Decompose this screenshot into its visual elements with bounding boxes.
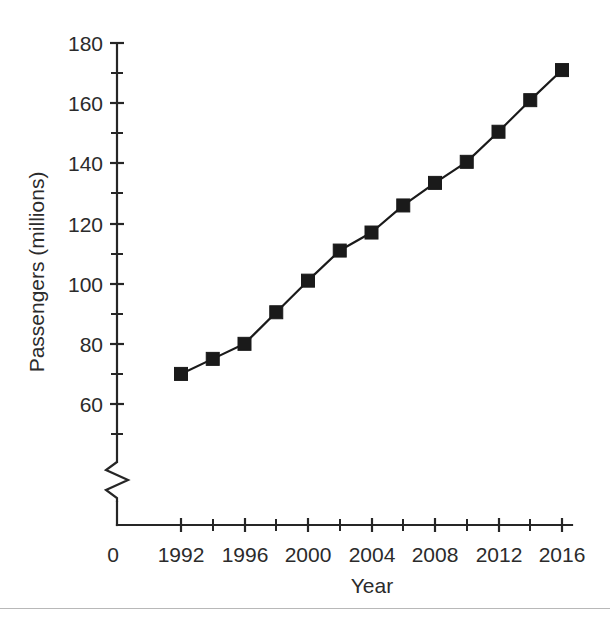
x-axis-title: Year xyxy=(351,574,393,597)
footer-divider xyxy=(0,608,610,609)
y-tick-label-140: 140 xyxy=(68,152,103,175)
data-point-marker xyxy=(270,306,283,319)
data-point-marker xyxy=(333,244,346,257)
data-point-marker xyxy=(175,367,188,380)
series-markers xyxy=(175,64,569,381)
series-line xyxy=(181,70,562,374)
x-axis: 0 1992 1996 2000 2004 2008 2012 2016 Yea… xyxy=(107,518,585,597)
x-origin-label: 0 xyxy=(107,543,119,566)
x-tick-label-2008: 2008 xyxy=(412,543,459,566)
data-point-marker xyxy=(302,274,315,287)
y-tick-label-180: 180 xyxy=(68,32,103,55)
line-chart: 180 160 140 120 100 80 60 Passengers (mi… xyxy=(0,0,610,623)
data-point-marker xyxy=(365,226,378,239)
y-tick-label-100: 100 xyxy=(68,273,103,296)
data-point-marker xyxy=(460,155,473,168)
y-tick-label-60: 60 xyxy=(80,393,103,416)
x-tick-label-1992: 1992 xyxy=(158,543,205,566)
y-axis-title: Passengers (millions) xyxy=(25,172,48,373)
data-series-passengers xyxy=(175,64,569,381)
x-tick-label-2016: 2016 xyxy=(539,543,586,566)
x-tick-label-2004: 2004 xyxy=(349,543,396,566)
y-tick-label-160: 160 xyxy=(68,92,103,115)
data-point-marker xyxy=(524,94,537,107)
x-tick-label-2012: 2012 xyxy=(476,543,523,566)
y-axis: 180 160 140 120 100 80 60 Passengers (mi… xyxy=(25,32,128,525)
x-tick-label-2000: 2000 xyxy=(285,543,332,566)
data-point-marker xyxy=(238,337,251,350)
axis-break-zigzag xyxy=(106,462,128,502)
y-tick-label-120: 120 xyxy=(68,213,103,236)
y-tick-label-80: 80 xyxy=(80,333,103,356)
x-tick-label-1996: 1996 xyxy=(222,543,269,566)
chart-figure: 180 160 140 120 100 80 60 Passengers (mi… xyxy=(0,0,610,623)
data-point-marker xyxy=(206,352,219,365)
data-point-marker xyxy=(492,125,505,138)
data-point-marker xyxy=(429,176,442,189)
data-point-marker xyxy=(556,64,569,77)
data-point-marker xyxy=(397,199,410,212)
